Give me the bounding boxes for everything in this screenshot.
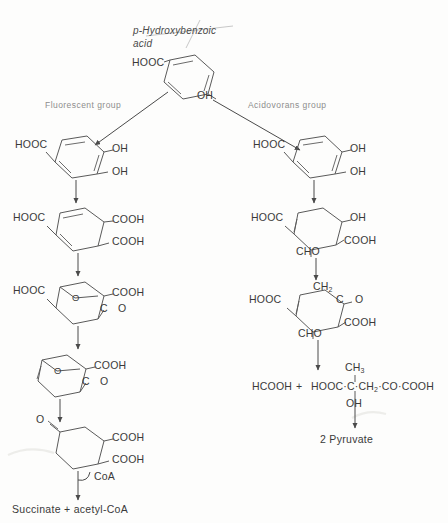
left-3-carboxyl-left: HOOC — [13, 285, 45, 296]
product-plus-sign: + — [296, 381, 302, 392]
left-1-hydroxyl-bottom: OH — [112, 166, 128, 177]
left-5-carboxyl-top: COOH — [112, 432, 144, 443]
left-1-hydroxyl-top: OH — [112, 143, 128, 154]
left-products-label: Succinate + acetyl-CoA — [12, 504, 128, 515]
left-4-carboxyl: COOH — [94, 360, 126, 371]
right-final-product-label: 2 Pyruvate — [320, 434, 373, 445]
product-formate: HCOOH — [252, 381, 292, 392]
right-3-carbonyl-oxygen: O — [355, 294, 363, 305]
left-2-carboxyl-top: COOH — [112, 214, 144, 225]
right-1-hydroxyl-top: OH — [350, 143, 366, 154]
right-3-aldehyde: CHO — [298, 328, 322, 339]
left-4-ring-oxygen: O — [54, 366, 61, 376]
right-2-aldehyde: CHO — [296, 246, 320, 257]
branch-label-fluorescent: Fluorescent group — [45, 101, 121, 110]
left-4-carbonyl-oxygen: O — [100, 376, 108, 387]
right-3-methylene: CH2 — [313, 281, 333, 293]
left-3-carbonyl-carbon: C — [100, 303, 108, 314]
left-2-carboxyl-left: HOOC — [13, 212, 45, 223]
product-methyl-group: CH3 — [345, 362, 365, 374]
product-hydroxyl-group: OH — [346, 398, 362, 409]
left-structure-2 — [47, 208, 113, 251]
right-1-hydroxyl-bottom: OH — [350, 166, 366, 177]
right-structure-1-ring — [284, 136, 351, 178]
smudge-mark — [8, 449, 54, 455]
smudge-mark — [352, 412, 386, 418]
right-1-carboxyl: HOOC — [253, 139, 285, 150]
right-2-carboxyl: COOH — [344, 235, 376, 246]
left-structure-5 — [48, 421, 113, 469]
pathway-diagram: p-Hydroxybenzoic acid HOOC OH Fluorescen… — [0, 0, 448, 523]
product-citramalate-chain: HOOC·C·CH2·CO·COOH — [311, 381, 434, 393]
right-3-carboxyl: COOH — [344, 317, 376, 328]
right-3-methylene-subscript: 2 — [329, 286, 333, 293]
page-title-line1: p-Hydroxybenzoic — [133, 25, 216, 37]
left-1-carboxyl: HOOC — [15, 139, 47, 150]
diagram-vector-layer — [0, 0, 448, 523]
right-3-carbonyl-carbon: C — [336, 294, 344, 305]
left-structure-1-ring — [46, 136, 113, 178]
left-2-carboxyl-bottom: COOH — [112, 236, 144, 247]
methyl-subscript: 3 — [361, 367, 365, 374]
coa-curve — [78, 472, 90, 480]
page-title-line2: acid — [133, 38, 152, 50]
right-2-carboxyl-left: HOOC — [251, 212, 283, 223]
cofactor-coa-label: CoA — [94, 471, 115, 482]
left-4-carbonyl-carbon: C — [82, 376, 90, 387]
left-5-carboxyl-bottom: COOH — [112, 454, 144, 465]
right-2-hydroxyl: OH — [350, 212, 366, 223]
right-3-carboxyl-left: HOOC — [249, 294, 281, 305]
left-3-ring-oxygen: O — [72, 293, 79, 303]
substrate-carboxyl-label: HOOC — [132, 57, 164, 68]
left-5-ketone-oxygen: O — [36, 414, 44, 425]
left-3-carboxyl: COOH — [112, 287, 144, 298]
left-3-carbonyl-oxygen: O — [118, 303, 126, 314]
branch-label-acidovorans: Acidovorans group — [248, 101, 327, 110]
substrate-hydroxyl-label: OH — [197, 90, 213, 101]
